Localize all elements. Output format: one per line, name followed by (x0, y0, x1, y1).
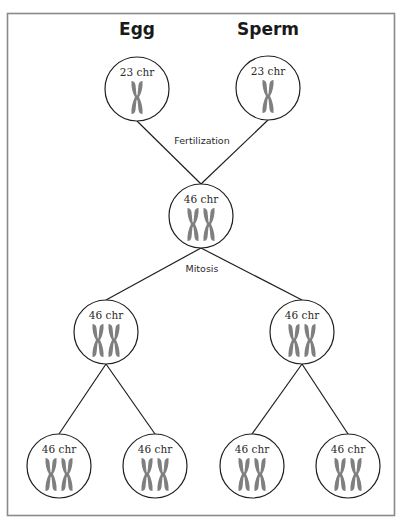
sperm-to-zygote-line (201, 120, 268, 184)
left-to-gd2-line (106, 364, 155, 434)
sperm-header: Sperm (237, 19, 299, 39)
chromosome-count: 46 chr (89, 309, 124, 321)
chromosome-count: 23 chr (251, 65, 286, 77)
cell-granddaughter-1: 46 chr (27, 434, 91, 498)
chromosome-count: 46 chr (42, 443, 77, 455)
cell-zygote: 46 chr (169, 184, 233, 248)
cell-daughter-right: 46 chr (270, 300, 334, 364)
mitosis-label: Mitosis (186, 263, 219, 274)
chromosome-count: 46 chr (235, 443, 270, 455)
chromosome-count: 46 chr (331, 443, 366, 455)
cell-granddaughter-2: 46 chr (123, 434, 187, 498)
zygote-to-right-line (201, 248, 302, 300)
egg-header: Egg (119, 19, 155, 39)
cell-granddaughter-3: 46 chr (220, 434, 284, 498)
connector-lines (59, 120, 348, 434)
chromosome-count: 23 chr (120, 66, 155, 78)
fertilization-label: Fertilization (174, 135, 229, 146)
chromosome-count: 46 chr (285, 309, 320, 321)
chromosome-count: 46 chr (184, 193, 219, 205)
chromosome-count: 46 chr (138, 443, 173, 455)
cell-daughter-left: 46 chr (74, 300, 138, 364)
egg-to-zygote-line (137, 121, 201, 184)
cell-granddaughter-4: 46 chr (316, 434, 380, 498)
right-to-gd3-line (252, 364, 302, 434)
right-to-gd4-line (302, 364, 348, 434)
left-to-gd1-line (59, 364, 106, 434)
fertilization-mitosis-diagram: Egg Sperm Fertilization Mitosis 23 chr 2… (0, 0, 400, 524)
cell-egg: 23 chr (105, 57, 169, 121)
cell-sperm: 23 chr (236, 56, 300, 120)
zygote-to-left-line (106, 248, 201, 300)
